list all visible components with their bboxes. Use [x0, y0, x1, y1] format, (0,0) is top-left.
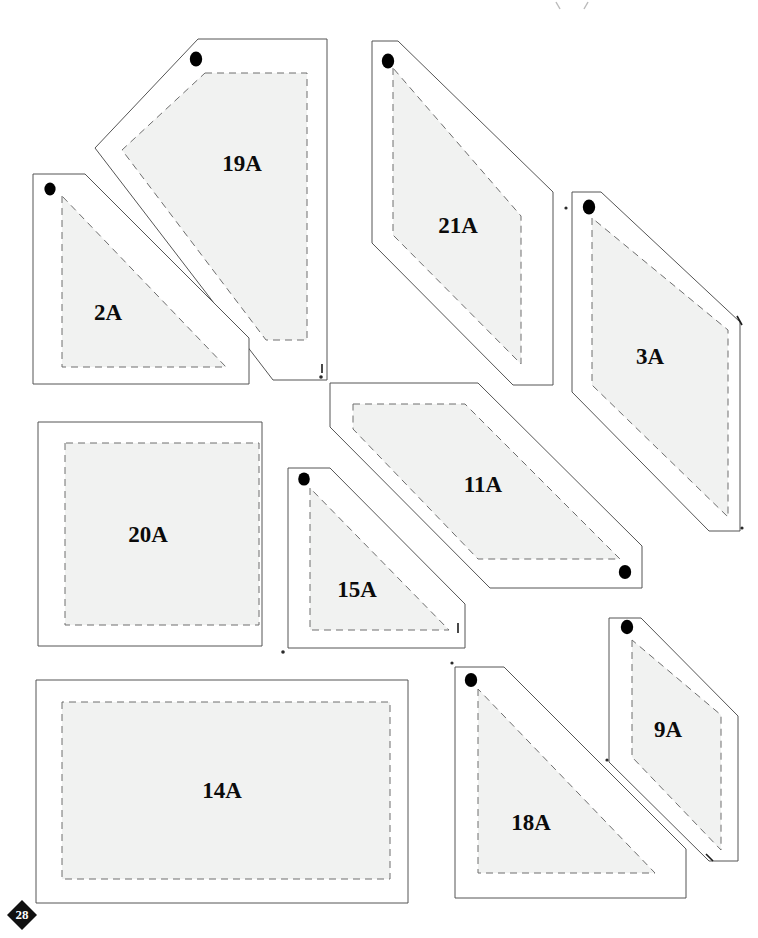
pattern-piece-3a[interactable]: 3A — [572, 192, 740, 531]
pattern-canvas: 19A 2A 21A 3A 20A — [0, 0, 758, 938]
piece-15a-alignment-dot — [298, 472, 310, 485]
piece-14a-label: 14A — [202, 778, 242, 803]
piece-15a-label: 15A — [337, 577, 377, 602]
piece-19a-label: 19A — [222, 151, 262, 176]
pattern-piece-20a[interactable]: 20A — [38, 422, 262, 646]
speck-upper-center — [319, 375, 323, 379]
piece-11a-alignment-dot — [619, 565, 631, 579]
pattern-piece-14a[interactable]: 14A — [36, 680, 408, 903]
pattern-sheet: 19A 2A 21A 3A 20A — [0, 0, 758, 938]
piece-19a-alignment-dot — [190, 52, 202, 67]
piece-11a-label: 11A — [464, 472, 503, 497]
speck-right-of-9a-upper — [605, 758, 608, 761]
piece-18a-alignment-dot — [465, 673, 477, 687]
piece-21a-alignment-dot — [382, 54, 394, 69]
speck-left-of-18a — [450, 661, 453, 664]
piece-2a-label: 2A — [94, 300, 123, 325]
piece-20a-label: 20A — [128, 522, 168, 547]
speck-right-of-3a-lower — [740, 526, 743, 529]
page-number-badge: 28 — [7, 900, 37, 930]
top-crop-mark — [556, 2, 588, 9]
speck-below-15a — [281, 650, 285, 654]
piece-9a-label: 9A — [654, 717, 683, 742]
piece-9a-alignment-dot — [621, 620, 633, 634]
piece-21a-label: 21A — [438, 213, 478, 238]
piece-18a-label: 18A — [511, 810, 551, 835]
speck-left-of-3a — [564, 206, 567, 209]
page-badge-number: 28 — [16, 907, 30, 922]
piece-2a-alignment-dot — [44, 183, 55, 196]
pattern-piece-21a[interactable]: 21A — [372, 41, 553, 385]
piece-3a-alignment-dot — [583, 200, 595, 215]
piece-3a-label: 3A — [636, 344, 665, 369]
